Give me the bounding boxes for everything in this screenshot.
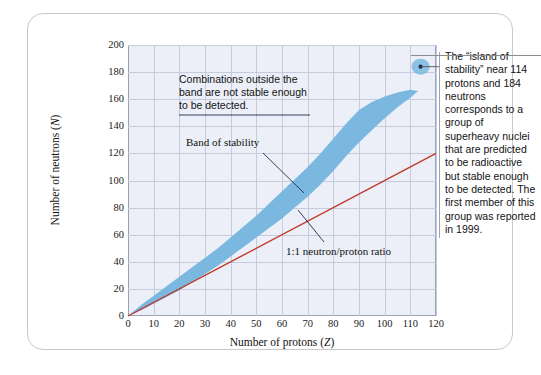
y-tick-label: 140 [88,121,124,131]
y-tick-label: 0 [88,311,124,321]
x-axis-title: Number of protons (Z) [128,336,436,348]
annotation-outside-band-line: to be detected. [179,99,339,112]
island-note-rule [439,52,440,238]
y-axis-title: Number of neutrons (N) [49,80,61,260]
x-tick-label: 120 [428,318,444,330]
x-tick-label: 30 [200,318,211,330]
annotation-ratio-label: 1:1 neutron/proton ratio [286,245,391,257]
x-axis-title-symbol: Z [324,336,330,348]
annotation-outside-band: Combinations outside theband are not sta… [179,73,339,113]
band-of-stability-leader [263,153,304,193]
figure-card: Number of neutrons (N) 02040608010012014… [27,13,513,350]
y-tick-labels: 020406080100120140160180200 [84,45,124,316]
figure-root: Number of neutrons (N) 02040608010012014… [0,0,541,375]
x-tick-label: 90 [354,318,365,330]
x-axis-title-text: Number of protons ( [230,336,324,348]
y-tick-label: 180 [88,67,124,77]
island-note-leader-line [411,55,541,56]
x-tick-label: 40 [225,318,236,330]
x-tick-label: 100 [377,318,393,330]
x-tick-label: 20 [174,318,185,330]
annotation-outside-band-line: band are not stable enough [179,86,339,99]
y-tick-label: 160 [88,94,124,104]
y-tick-label: 80 [88,203,124,213]
x-tick-label: 60 [277,318,288,330]
y-tick-label: 60 [88,230,124,240]
annotation-band-of-stability: Band of stability [186,136,259,148]
ratio-line [128,153,436,316]
annotation-outside-band-line: Combinations outside the [179,73,339,86]
x-tick-label: 110 [403,318,418,330]
x-tick-label: 80 [328,318,339,330]
y-tick-label: 40 [88,257,124,267]
x-tick-label: 50 [251,318,262,330]
x-tick-label: 10 [148,318,159,330]
plot-area: Combinations outside theband are not sta… [128,45,436,316]
y-tick-label: 100 [88,176,124,186]
y-axis-title-text: Number of neutrons ( [49,126,61,225]
band-of-stability-shape [128,90,418,316]
y-axis-title-symbol: N [49,118,61,126]
y-tick-label: 20 [88,284,124,294]
y-tick-label: 120 [88,148,124,158]
x-tick-label: 0 [125,318,130,330]
x-tick-labels: 0102030405060708090100110120 [128,318,436,334]
x-tick-label: 70 [302,318,313,330]
annotation-island-of-stability: The “island of stability” near 114 proto… [445,50,537,236]
grid-line-vertical [436,45,437,316]
y-tick-label: 200 [88,40,124,50]
